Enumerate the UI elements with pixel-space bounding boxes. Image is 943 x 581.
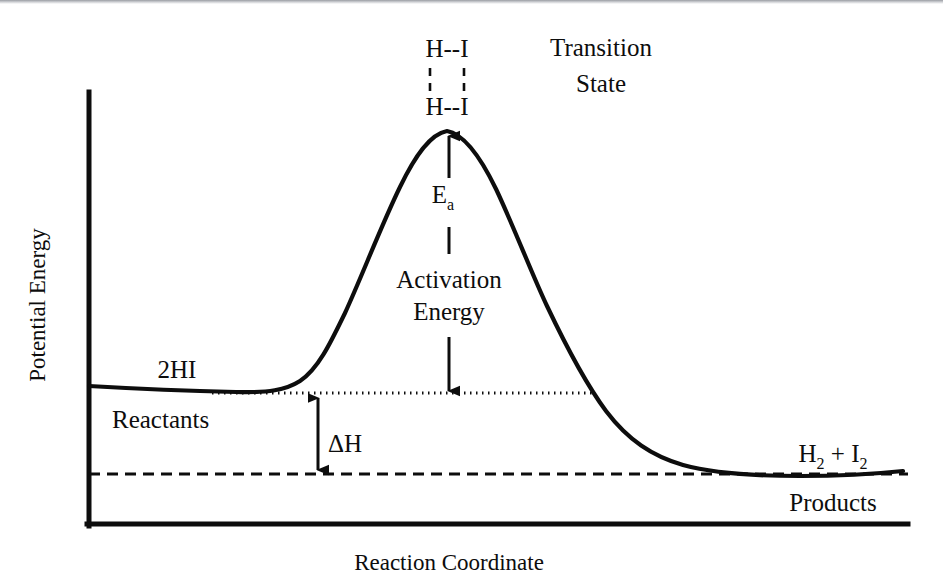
- delta-h-label: ΔH: [328, 430, 362, 457]
- ea-label: Ea: [432, 181, 454, 213]
- activation-energy-line1: Activation: [396, 266, 502, 293]
- transition-state-complex: H--I H--I: [425, 35, 468, 120]
- reactants-label: Reactants: [112, 406, 209, 433]
- complex-bottom-label: H--I: [425, 93, 468, 120]
- products-formula-h: H: [799, 440, 817, 467]
- axes: [87, 92, 908, 526]
- reactants-formula: 2HI: [158, 356, 197, 383]
- y-axis-label: Potential Energy: [25, 228, 50, 382]
- energy-diagram-figure: H--I H--I Transition State Ea Activation…: [0, 0, 943, 581]
- complex-top-label: H--I: [425, 35, 468, 62]
- reactants-group: 2HI Reactants: [112, 356, 209, 433]
- products-formula-i-subscript: 2: [860, 455, 868, 472]
- activation-energy-line2: Energy: [413, 298, 485, 325]
- x-axis-label: Reaction Coordinate: [354, 550, 544, 575]
- transition-state-line2: State: [576, 70, 626, 97]
- products-formula: H2 + I2: [799, 440, 868, 472]
- reaction-energy-diagram: H--I H--I Transition State Ea Activation…: [0, 0, 943, 581]
- products-formula-plus: + I: [825, 440, 860, 467]
- products-formula-h-subscript: 2: [817, 455, 825, 472]
- transition-state-caption: Transition State: [550, 34, 652, 97]
- transition-state-line1: Transition: [550, 34, 652, 61]
- potential-energy-curve: [89, 131, 903, 476]
- products-label: Products: [789, 489, 877, 516]
- ea-symbol: E: [432, 181, 447, 208]
- delta-h-annotation: ΔH: [318, 398, 362, 470]
- ea-subscript: a: [447, 196, 454, 213]
